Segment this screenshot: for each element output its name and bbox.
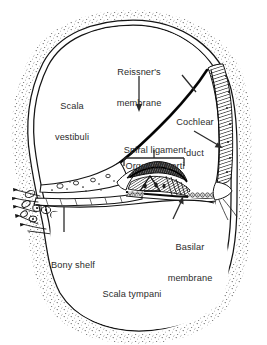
label-scala-tympani-line1: Scala tympani [87,289,177,299]
cochlea-diagram: Reissner's membrane Scala vestibuli Coch… [0,0,267,345]
label-scala-vestibuli-line1: Scala [41,101,103,111]
label-scala-vestibuli: Scala vestibuli [41,80,103,163]
label-reissners-membrane-line1: Reissner's [103,67,175,77]
label-scala-tympani: Scala tympani [87,268,177,320]
label-scala-vestibuli-line2: vestibuli [41,132,103,142]
label-organ-of-corti-line1: Organ of Corti [112,161,198,171]
label-basilar-membrane-line1: Basilar [154,242,226,252]
label-organ-of-corti: Organ of Corti [112,140,198,192]
